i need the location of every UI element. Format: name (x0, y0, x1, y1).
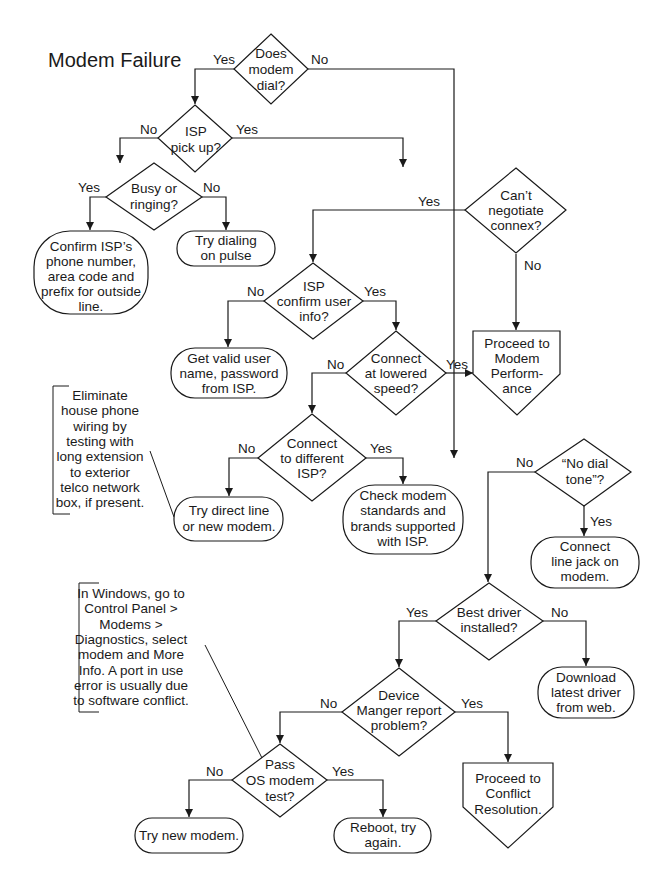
svg-text:ringing?: ringing? (130, 197, 178, 212)
svg-text:with ISP.: with ISP. (376, 534, 429, 549)
svg-text:Resolution.: Resolution. (474, 802, 542, 817)
svg-text:Perform-: Perform- (491, 366, 544, 381)
svg-text:name, password: name, password (179, 366, 278, 381)
svg-text:Control Panel >: Control Panel > (84, 601, 178, 616)
svg-text:area code and: area code and (48, 269, 134, 284)
svg-text:Diagnostics, select: Diagnostics, select (75, 632, 188, 647)
decision-pass-os-modem-test[interactable]: Pass OS modem test? (232, 744, 327, 817)
decision-connect-different-isp[interactable]: Connect to different ISP? (258, 414, 366, 501)
edge-label-ostest-yes: Yes (332, 764, 354, 779)
svg-text:Conflict: Conflict (485, 786, 530, 801)
annotation-windows-diagnostics: In Windows, go to Control Panel > Modems… (73, 583, 189, 712)
svg-text:line.: line. (79, 299, 104, 314)
offpage-proceed-modem-performance[interactable]: Proceed to Modem Perform- ance (473, 331, 560, 415)
terminal-get-valid-user[interactable]: Get valid user name, password from ISP. (171, 348, 287, 398)
edge-label-dialtone-no: No (516, 455, 533, 470)
terminal-try-dialing-pulse[interactable]: Try dialing on pulse (177, 231, 275, 266)
flowchart-canvas: Modem Failure (0, 0, 669, 890)
svg-text:Modems >: Modems > (99, 617, 163, 632)
svg-text:long extension: long extension (56, 449, 143, 464)
decision-device-manager[interactable]: Device Manger report problem? (342, 668, 455, 756)
terminal-try-direct-line[interactable]: Try direct line or new modem. (174, 497, 283, 541)
svg-text:modem.: modem. (561, 569, 610, 584)
decision-isp-pick-up[interactable]: ISP pick up? (158, 105, 232, 172)
decision-connect-lowered-speed[interactable]: Connect at lowered speed? (346, 331, 446, 415)
svg-text:negotiate: negotiate (488, 203, 544, 218)
svg-text:house phone: house phone (61, 403, 139, 418)
svg-text:standards and: standards and (360, 503, 446, 518)
svg-text:Can’t: Can’t (500, 188, 532, 203)
svg-text:ISP: ISP (185, 124, 207, 139)
edge-label-ostest-no: No (206, 764, 223, 779)
svg-text:Download: Download (556, 670, 616, 685)
svg-text:confirm user: confirm user (277, 294, 352, 309)
svg-text:Best driver: Best driver (457, 605, 522, 620)
svg-text:Get valid user: Get valid user (187, 351, 271, 366)
svg-text:to different: to different (280, 451, 344, 466)
svg-text:Proceed to: Proceed to (475, 771, 540, 786)
decision-best-driver[interactable]: Best driver installed? (436, 583, 543, 660)
terminal-connect-line-jack[interactable]: Connect line jack on modem. (531, 537, 639, 588)
svg-text:Connect: Connect (287, 436, 338, 451)
svg-text:OS modem: OS modem (246, 773, 314, 788)
edge-label-lowered-yes: Yes (446, 357, 468, 372)
edge-label-driver-no: No (551, 605, 568, 620)
svg-text:Try direct line: Try direct line (189, 503, 270, 518)
edge-label-busy-yes: Yes (78, 180, 100, 195)
page-title: Modem Failure (48, 49, 181, 71)
decision-isp-confirm-user[interactable]: ISP confirm user info? (264, 263, 363, 339)
edge-label-pick-yes: Yes (236, 122, 258, 137)
edge-label-different-no: No (238, 441, 255, 456)
svg-text:box, if present.: box, if present. (56, 495, 145, 510)
offpage-proceed-conflict-resolution[interactable]: Proceed to Conflict Resolution. (463, 763, 553, 848)
svg-text:Info. A port in use: Info. A port in use (79, 663, 183, 678)
decision-busy-or-ringing[interactable]: Busy or ringing? (106, 163, 202, 230)
terminal-try-new-modem[interactable]: Try new modem. (135, 818, 243, 853)
svg-text:prefix for outside: prefix for outside (41, 284, 141, 299)
edge-label-devmgr-no: No (320, 696, 337, 711)
svg-text:modem and More: modem and More (78, 647, 184, 662)
svg-text:Check modem: Check modem (359, 488, 446, 503)
svg-text:Try dialing: Try dialing (195, 233, 257, 248)
svg-text:Connect: Connect (560, 539, 611, 554)
edge-label-busy-no: No (203, 180, 220, 195)
svg-text:Try new modem.: Try new modem. (139, 828, 239, 843)
svg-text:telco network: telco network (60, 480, 140, 495)
svg-text:pick up?: pick up? (171, 140, 221, 155)
svg-text:dial?: dial? (257, 78, 286, 93)
svg-text:Reboot, try: Reboot, try (350, 820, 416, 835)
annotation-house-wiring: Eliminate house phone wiring by testing … (53, 386, 144, 514)
svg-text:ance: ance (502, 381, 531, 396)
svg-text:latest driver: latest driver (551, 685, 621, 700)
edge-label-devmgr-yes: Yes (461, 696, 483, 711)
svg-text:Device: Device (378, 688, 419, 703)
edge-label-dialtone-yes: Yes (590, 514, 612, 529)
edge-label-negotiate-no: No (524, 258, 541, 273)
svg-text:installed?: installed? (460, 620, 517, 635)
edge-label-lowered-no: No (327, 357, 344, 372)
svg-text:Manger report: Manger report (357, 703, 442, 718)
svg-text:error is usually due: error is usually due (74, 678, 188, 693)
svg-text:to exterior: to exterior (70, 465, 131, 480)
svg-text:connex?: connex? (490, 218, 541, 233)
svg-text:Pass: Pass (265, 757, 295, 772)
svg-text:or new modem.: or new modem. (182, 519, 275, 534)
svg-text:Modem: Modem (494, 351, 539, 366)
svg-text:“No dial: “No dial (562, 456, 609, 471)
decision-no-dial-tone[interactable]: “No dial tone”? (535, 439, 631, 506)
svg-text:to software conflict.: to software conflict. (73, 693, 189, 708)
terminal-check-modem-standards[interactable]: Check modem standards and brands support… (343, 485, 463, 554)
svg-text:wiring by: wiring by (72, 419, 127, 434)
svg-text:ISP?: ISP? (297, 466, 326, 481)
svg-text:at lowered: at lowered (365, 366, 427, 381)
svg-text:Eliminate: Eliminate (72, 388, 128, 403)
svg-text:In Windows, go to: In Windows, go to (77, 586, 184, 601)
terminal-confirm-isp-number[interactable]: Confirm ISP’s phone number, area code an… (34, 231, 148, 314)
terminal-download-driver[interactable]: Download latest driver from web. (538, 667, 634, 718)
svg-text:tone”?: tone”? (566, 472, 604, 487)
svg-text:info?: info? (299, 309, 328, 324)
decision-cant-negotiate[interactable]: Can’t negotiate connex? (465, 168, 566, 253)
svg-text:Busy or: Busy or (131, 181, 177, 196)
terminal-reboot[interactable]: Reboot, try again. (334, 818, 431, 853)
decision-does-modem-dial[interactable]: Does modem dial? (234, 34, 308, 104)
